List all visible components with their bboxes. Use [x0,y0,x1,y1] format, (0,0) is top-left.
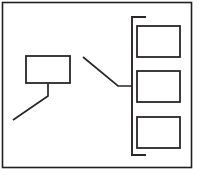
left-rectangle [26,56,70,83]
right-box-top [137,26,180,57]
right-box-bottom [137,117,180,148]
schematic-diagram [0,0,201,175]
diagram-canvas [0,0,201,175]
right-box-middle [137,71,180,102]
